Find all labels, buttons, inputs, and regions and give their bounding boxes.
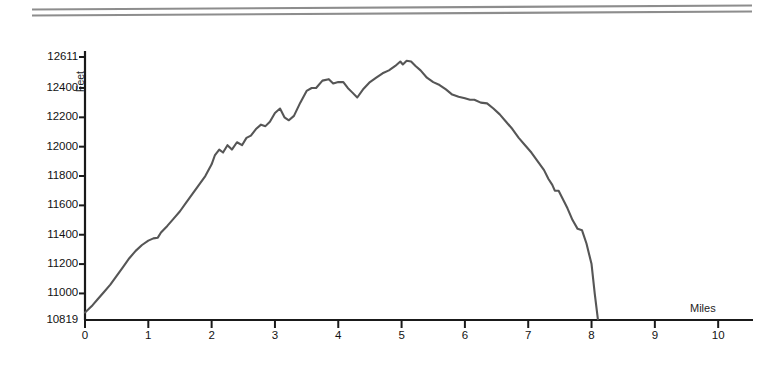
x-axis-tick-label: 3 [260,329,290,341]
double-rule-svg [0,0,766,34]
x-axis-tick-label: 9 [640,329,670,341]
y-axis-title: Feet [75,71,86,92]
x-axis-tick-label: 2 [197,329,227,341]
x-axis-tick-label: 10 [703,329,733,341]
page-top-rule-ornament [0,0,766,34]
x-axis-tick-label: 4 [323,329,353,341]
x-axis-tick-label: 1 [133,329,163,341]
x-axis-tick-label: 6 [450,329,480,341]
x-axis-tick-label: 5 [387,329,417,341]
x-axis-tick-labels: 012345678910 [0,34,766,365]
x-axis-tick-label: 0 [70,329,100,341]
elevation-profile-chart: 1081911000112001140011600118001200012200… [0,34,766,365]
x-axis-tick-label: 7 [513,329,543,341]
x-axis-title: Miles [690,302,716,314]
x-axis-tick-label: 8 [577,329,607,341]
rule-line-top [32,6,752,10]
rule-line-bottom [32,12,752,16]
